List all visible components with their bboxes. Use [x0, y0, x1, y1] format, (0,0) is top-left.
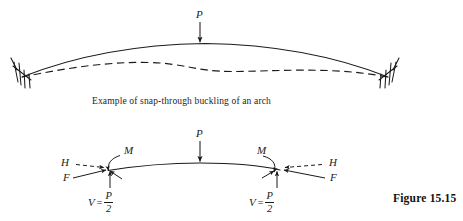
f-force-arrow-left	[73, 170, 106, 178]
v-symbol-left: V	[88, 197, 95, 208]
h-force-arrow-right	[285, 165, 322, 168]
lower-fbd-group	[73, 141, 325, 188]
figure-caption: Example of snap-through buckling of an a…	[92, 97, 271, 107]
lower-load-label: P	[196, 128, 203, 139]
support-pin-left	[11, 58, 31, 88]
f-label-left: F	[63, 172, 70, 183]
h-label-right: H	[329, 157, 337, 168]
f-label-right: F	[330, 172, 337, 183]
thrust-arrow-right	[262, 171, 274, 178]
equals-sign-left: =	[97, 198, 103, 208]
m-label-right: M	[257, 145, 266, 156]
p-over-2-fraction-left: P 2	[104, 191, 112, 214]
original-arch-curve	[22, 44, 388, 78]
fbd-beam-curve	[108, 163, 280, 171]
fraction-numerator-right: P	[265, 191, 273, 202]
h-label-left: H	[61, 157, 69, 168]
fraction-denominator-left: 2	[105, 204, 112, 215]
equals-sign-right: =	[258, 198, 264, 208]
v-reaction-label-right: V = P 2	[249, 191, 274, 214]
v-reaction-label-left: V = P 2	[88, 191, 113, 214]
v-symbol-right: V	[249, 197, 256, 208]
fraction-denominator-right: 2	[266, 204, 273, 215]
moment-arc-right	[263, 156, 275, 172]
figure-container: P Example of snap-through buckling of an…	[0, 0, 463, 221]
upper-arch-group	[11, 22, 399, 88]
buckled-arch-curve	[22, 62, 388, 77]
figure-number-label: Figure 15.15	[393, 193, 457, 205]
p-over-2-fraction-right: P 2	[265, 191, 273, 214]
f-force-arrow-right	[284, 170, 325, 178]
thrust-arrow-left	[110, 171, 122, 179]
upper-load-label: P	[196, 9, 203, 20]
moment-arc-left	[108, 156, 120, 171]
h-force-arrow-left	[76, 165, 104, 168]
figure-drawing	[0, 0, 463, 221]
support-pin-right	[379, 58, 399, 88]
fraction-numerator-left: P	[104, 191, 112, 202]
m-label-left: M	[124, 145, 133, 156]
